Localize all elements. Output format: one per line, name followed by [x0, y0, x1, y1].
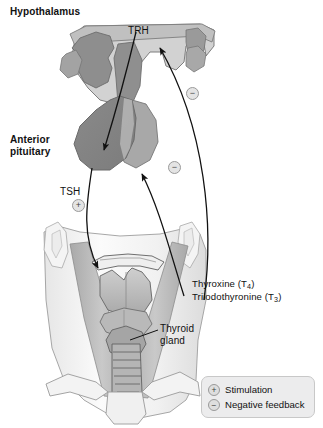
legend-item-stimulation: + Stimulation — [208, 382, 307, 397]
negative-feedback-badge-pituitary: − — [168, 161, 181, 174]
legend-label-negative-feedback: Negative feedback — [225, 399, 304, 410]
thyroid-axis-diagram: Hypothalamus TRH Anteriorpituitary TSH T… — [0, 0, 323, 428]
negative-feedback-badge-hypothalamus: − — [186, 87, 199, 100]
stimulation-badge-tsh: + — [72, 199, 85, 212]
thyroid-label-leader — [0, 0, 323, 428]
legend: + Stimulation − Negative feedback — [201, 376, 315, 418]
plus-icon: + — [208, 384, 220, 396]
minus-icon: − — [208, 399, 220, 411]
legend-item-negative-feedback: − Negative feedback — [208, 397, 307, 412]
legend-label-stimulation: Stimulation — [225, 384, 272, 395]
